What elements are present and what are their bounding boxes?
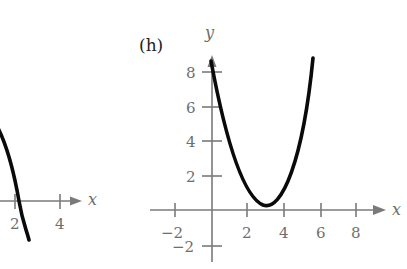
h-x-arrow-icon [373,205,386,215]
h-ytick-label-m2: −2 [172,238,194,256]
h-xtick-label-2: 2 [242,224,252,242]
h-xtick-label-6: 6 [316,224,326,242]
h-ytick-label-6: 6 [186,99,196,117]
h-ytick-label-2: 2 [186,168,196,186]
h-parabola-curve [211,58,313,206]
left-x-axis-label: x [88,190,97,209]
figure: 2 4 x (h) x y −2 2 4 6 8 8 6 4 2 − [0,0,407,269]
left-tick-label-2: 2 [10,215,20,233]
left-x-arrow-icon [70,197,82,206]
left-graph: 2 4 x [0,128,97,240]
graph-h: (h) x y −2 2 4 6 8 8 6 4 2 −2 [139,23,401,262]
h-x-axis-label: x [392,200,401,219]
left-tick-label-4: 4 [55,215,65,233]
h-ytick-label-4: 4 [186,133,196,151]
h-y-axis-label: y [204,23,215,42]
h-xtick-label-4: 4 [279,224,289,242]
panel-label-h: (h) [139,35,163,55]
h-xtick-label-8: 8 [351,224,361,242]
h-ytick-label-8: 8 [186,64,196,82]
